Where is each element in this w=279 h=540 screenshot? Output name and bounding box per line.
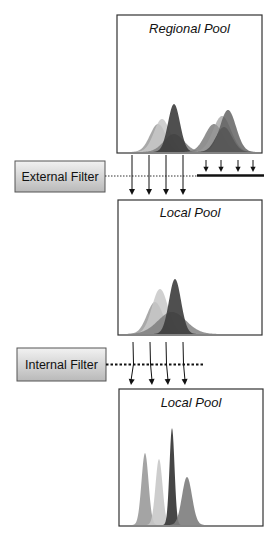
local-pool-1-frame bbox=[118, 200, 262, 335]
external-pass-arrows bbox=[129, 155, 186, 195]
arrow-down-icon bbox=[182, 379, 188, 385]
regional-pool-title: Regional Pool bbox=[149, 21, 231, 36]
local-pool-1-title: Local Pool bbox=[160, 205, 222, 220]
internal-arrow-shaft bbox=[167, 364, 169, 381]
internal-arrow-upper-shaft bbox=[166, 342, 167, 364]
internal-arrow-shaft bbox=[184, 364, 186, 381]
internal-arrow-upper-shaft bbox=[150, 342, 151, 364]
regional-pool-distributions bbox=[126, 104, 260, 152]
local-pool-2-distributions bbox=[131, 428, 207, 525]
arrow-down-icon bbox=[165, 379, 171, 385]
external-blocked-arrows bbox=[203, 160, 255, 172]
internal-arrow-upper-shaft bbox=[183, 342, 184, 364]
arrow-down-icon bbox=[146, 189, 152, 195]
arrow-down-icon bbox=[203, 167, 208, 172]
arrow-down-icon bbox=[218, 167, 223, 172]
arrow-down-icon bbox=[129, 379, 135, 385]
arrow-down-icon bbox=[180, 189, 186, 195]
external-filter-label: External Filter bbox=[21, 170, 98, 184]
internal-filter-label: Internal Filter bbox=[25, 358, 98, 372]
arrow-down-icon bbox=[129, 189, 135, 195]
internal-arrow-shaft bbox=[151, 364, 153, 381]
arrow-down-icon bbox=[149, 379, 155, 385]
local-pool-2-title: Local Pool bbox=[161, 395, 223, 410]
local-pool-2-panel: Local Pool bbox=[119, 389, 263, 526]
community-assembly-diagram: Regional Pool External Filter Local Pool… bbox=[0, 0, 279, 540]
arrow-down-icon bbox=[235, 167, 240, 172]
arrow-down-icon bbox=[163, 189, 169, 195]
local-pool-1-distributions bbox=[119, 279, 228, 334]
arrow-down-icon bbox=[250, 167, 255, 172]
regional-pool-panel: Regional Pool bbox=[117, 15, 262, 153]
internal-filter-group: Internal Filter bbox=[17, 342, 205, 385]
internal-arrow-upper-shaft bbox=[133, 342, 134, 364]
internal-arrow-shaft bbox=[131, 364, 134, 381]
local-pool-1-panel: Local Pool bbox=[118, 200, 262, 335]
external-filter-group: External Filter bbox=[15, 155, 264, 195]
